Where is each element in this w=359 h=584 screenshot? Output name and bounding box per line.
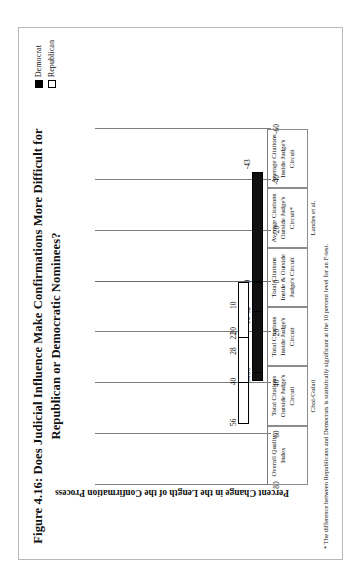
figure-page: Figure 4.16: Does Judicial Influence Mak… bbox=[0, 0, 359, 584]
bar-value-label: 40 bbox=[229, 378, 238, 385]
category-label: Total CitationsOutside Judge'sCircuit bbox=[268, 366, 308, 425]
gridline--20 bbox=[95, 230, 267, 231]
bar-republican bbox=[238, 282, 249, 338]
gridline-80 bbox=[95, 484, 267, 485]
figure-footnote: * The difference between Republicans and… bbox=[322, 34, 329, 549]
page-title: Figure 4.16: Does Judicial Influence Mak… bbox=[29, 121, 66, 551]
bar-democrat bbox=[252, 282, 263, 313]
gridline--40 bbox=[95, 179, 267, 180]
legend-item-democrat: Democrat bbox=[33, 40, 46, 88]
gridline-60 bbox=[95, 433, 267, 434]
group-label: Landes et al. bbox=[309, 200, 316, 235]
bar-democrat bbox=[252, 172, 263, 281]
category-axis-table: Overall QualityIndexTotal CitationsOutsi… bbox=[268, 129, 312, 485]
filled-square-icon bbox=[35, 80, 43, 88]
legend-label-democrat: Democrat bbox=[33, 45, 46, 77]
axis-title-value: Percent Change in the Length of the Conf… bbox=[32, 488, 312, 498]
category-label: Total CitationsInside Judge'sCircuit bbox=[268, 307, 308, 366]
bar-value-label: 22 bbox=[229, 332, 238, 339]
category-label: Overall QualityIndex bbox=[268, 426, 308, 485]
group-label: Choi-Gulati bbox=[309, 380, 316, 413]
legend-item-republican: Republican bbox=[46, 40, 59, 88]
chart-legend: Democrat Republican bbox=[33, 40, 58, 88]
gridline--60 bbox=[95, 128, 267, 129]
figure-frame: Figure 4.16: Does Judicial Influence Mak… bbox=[18, 27, 343, 560]
bar-value-label: 28 bbox=[229, 347, 238, 354]
legend-label-republican: Republican bbox=[46, 40, 59, 77]
category-label: Average CitationsInside Judge'sCircuit bbox=[268, 129, 308, 188]
chart-canvas: Figure 4.16: Does Judicial Influence Mak… bbox=[19, 28, 342, 559]
category-label: Total CitationsInside & OutsideJudge's C… bbox=[268, 248, 308, 307]
bar-value-label: 56 bbox=[229, 419, 238, 426]
rotated-chart-stage: Figure 4.16: Does Judicial Influence Mak… bbox=[19, 28, 342, 559]
category-label: Average CitationsOutside Judge'sCircuit* bbox=[268, 188, 308, 247]
hollow-square-icon bbox=[48, 80, 56, 88]
bar-value-label: 10 bbox=[229, 302, 238, 309]
bar-value-label: -43 bbox=[243, 159, 252, 169]
